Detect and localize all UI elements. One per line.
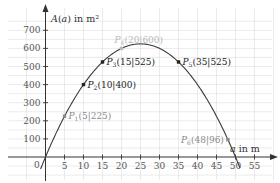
y-axis-arrow-icon: [43, 4, 49, 12]
tick-labels: 5101520253035404550551002003004005006007…: [23, 25, 260, 171]
parabola-chart: 5101520253035404550551002003004005006007…: [0, 0, 280, 183]
x-axis-arrow-icon: [270, 154, 278, 160]
y-tick-label: 500: [23, 62, 40, 72]
point-marker-icon: [120, 47, 123, 50]
data-points: P1(5|225)P2(10|400)P3(15|525)P4(20|600)P…: [63, 35, 231, 145]
x-tick-label: 30: [154, 161, 166, 171]
x-tick-label: 35: [173, 161, 185, 171]
point-label: P2(10|400): [87, 80, 137, 91]
y-tick-label: 100: [23, 134, 40, 144]
x-tick-label: 55: [249, 161, 261, 171]
x-tick-label: 15: [97, 161, 109, 171]
point-marker-icon: [177, 60, 180, 63]
point-label: P3(15|525): [106, 57, 156, 68]
x-tick-label: 20: [116, 161, 128, 171]
point-label: P5(35|525): [182, 57, 232, 68]
origin-label: 0: [34, 160, 40, 170]
point-p3: P3(15|525): [101, 57, 155, 68]
point-marker-icon: [63, 115, 66, 118]
x-axis-label: a in m: [230, 143, 260, 154]
y-axis-label: A(a) in m²: [50, 13, 99, 24]
point-marker-icon: [226, 138, 229, 141]
x-tick-label: 45: [211, 161, 223, 171]
x-tick-label: 25: [135, 161, 147, 171]
point-label: P1(5|225): [68, 111, 112, 122]
point-label: P6(48|96): [180, 135, 224, 146]
y-tick-label: 300: [23, 98, 40, 108]
x-tick-label: 5: [62, 161, 68, 171]
point-marker-icon: [101, 60, 104, 63]
point-p6: P6(48|96): [180, 135, 230, 146]
point-p1: P1(5|225): [63, 111, 112, 122]
point-p5: P5(35|525): [177, 57, 231, 68]
grid: [8, 8, 274, 180]
point-p2: P2(10|400): [82, 80, 136, 91]
y-tick-label: 200: [23, 116, 40, 126]
x-tick-label: 10: [78, 161, 90, 171]
y-tick-label: 700: [23, 25, 40, 35]
point-marker-icon: [82, 83, 85, 86]
x-tick-label: 40: [192, 161, 204, 171]
point-p4: P4(20|600): [114, 35, 164, 50]
y-tick-label: 400: [23, 80, 40, 90]
point-label: P4(20|600): [114, 35, 164, 46]
y-tick-label: 600: [23, 43, 40, 53]
